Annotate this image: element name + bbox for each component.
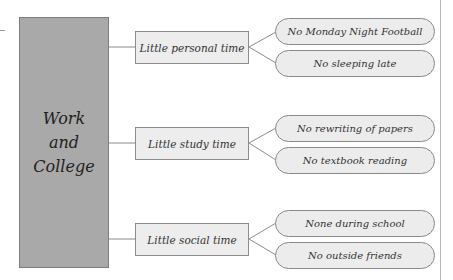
leaf-no-textbook-reading: No textbook reading: [275, 147, 435, 174]
leaf-no-outside-friends: No outside friends: [275, 242, 435, 269]
root-line-1: Work: [43, 107, 85, 131]
leaf-no-monday-night-football: No Monday Night Football: [275, 18, 435, 45]
leaf-no-sleeping-late: No sleeping late: [275, 50, 435, 77]
root-node-work-and-college: Work and College: [19, 17, 109, 268]
leaf-none-during-school: None during school: [275, 210, 435, 237]
root-line-3: College: [33, 155, 94, 179]
branch-study-time: Little study time: [135, 127, 249, 160]
branch-social-time: Little social time: [135, 223, 249, 256]
leaf-no-rewriting-papers: No rewriting of papers: [275, 115, 435, 142]
root-line-2: and: [49, 131, 79, 155]
branch-personal-time: Little personal time: [135, 31, 249, 64]
